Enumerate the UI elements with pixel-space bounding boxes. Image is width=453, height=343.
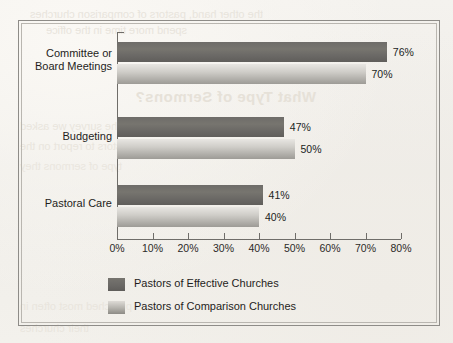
x-axis-tick (366, 233, 367, 239)
category-label: Budgeting (62, 130, 112, 143)
category-label: Committee or Board Meetings (35, 47, 112, 73)
bar-chart: 0%10%20%30%40%50%60%70%80%Committee or B… (0, 0, 453, 343)
bar-value-label: 70% (372, 68, 393, 80)
bar-effective (117, 117, 284, 137)
x-axis-tick (188, 233, 189, 239)
x-axis-tick (401, 233, 402, 239)
x-axis-label: 30% (213, 242, 234, 254)
bar-effective (117, 185, 263, 205)
x-axis-tick (224, 233, 225, 239)
bar-value-label: 47% (290, 121, 311, 133)
x-axis-label: 50% (284, 242, 305, 254)
bar-value-label: 40% (265, 211, 286, 223)
x-axis-label: 60% (319, 242, 340, 254)
x-axis-tick (153, 233, 154, 239)
x-axis-label: 20% (177, 242, 198, 254)
x-axis-tick (295, 233, 296, 239)
legend-label: Pastors of Effective Churches (134, 277, 279, 289)
bar-value-label: 76% (393, 46, 414, 58)
y-axis-tick (117, 32, 124, 33)
category-label: Pastoral Care (45, 197, 112, 210)
x-axis-label: 40% (248, 242, 269, 254)
bar-value-label: 41% (269, 189, 290, 201)
x-axis-tick (117, 233, 118, 239)
legend-swatch-effective (108, 278, 125, 291)
bar-comparison (117, 207, 259, 227)
x-axis-label: 10% (142, 242, 163, 254)
x-axis-tick (259, 233, 260, 239)
x-axis-line (117, 239, 401, 240)
legend-swatch-comparison (108, 301, 125, 314)
x-axis-label: 70% (355, 242, 376, 254)
x-axis-tick (330, 233, 331, 239)
bar-value-label: 50% (301, 143, 322, 155)
x-axis-label: 0% (109, 242, 124, 254)
bar-comparison (117, 139, 295, 159)
bar-comparison (117, 64, 366, 84)
x-axis-label: 80% (390, 242, 411, 254)
bar-effective (117, 42, 387, 62)
legend-label: Pastors of Comparison Churches (134, 300, 296, 312)
